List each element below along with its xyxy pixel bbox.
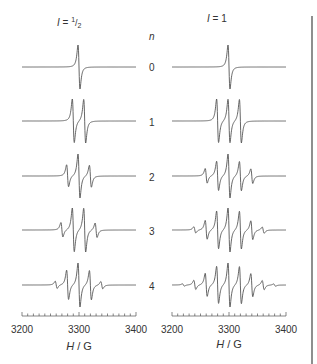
- spectrum-trace-n0: [22, 45, 136, 89]
- spectrum-trace-n1: [172, 99, 286, 143]
- spectrum-trace-n1: [22, 99, 136, 143]
- right-tick-3400: 3400: [275, 324, 298, 335]
- right-x-axis: [172, 312, 286, 316]
- n-labels: 0 1 2 3 4: [149, 62, 155, 292]
- n-label-3: 3: [149, 226, 155, 237]
- n-label-4: 4: [149, 281, 155, 292]
- n-header: n: [149, 31, 155, 42]
- spectrum-trace-n3: [172, 208, 286, 252]
- left-tick-3400: 3400: [125, 324, 148, 335]
- right-axis-title: H / G: [216, 338, 242, 350]
- spectrum-trace-n2: [172, 154, 286, 198]
- right-tick-3200: 3200: [161, 324, 184, 335]
- epr-spectra-figure: I = 1/2 I = 1 n 0 1 2 3 4 3200 3300 3400…: [0, 0, 317, 364]
- left-panel-title: I = 1/2: [57, 16, 82, 29]
- left-x-axis: [22, 312, 136, 316]
- spectrum-trace-n2: [22, 154, 136, 198]
- n-label-1: 1: [149, 117, 155, 128]
- right-panel-title: I = 1: [207, 13, 227, 24]
- n-label-0: 0: [149, 62, 155, 73]
- left-tick-3300: 3300: [68, 324, 91, 335]
- n-label-2: 2: [149, 172, 155, 183]
- left-axis-title: H / G: [66, 340, 92, 352]
- left-tick-3200: 3200: [11, 324, 34, 335]
- right-tick-3300: 3300: [218, 324, 241, 335]
- spectrum-trace-n3: [22, 208, 136, 252]
- left-panel-spectra: [22, 45, 136, 307]
- spectrum-trace-n4: [22, 263, 136, 307]
- right-panel-spectra: [172, 45, 286, 307]
- spectrum-trace-n4: [172, 263, 286, 307]
- spectrum-trace-n0: [172, 45, 286, 89]
